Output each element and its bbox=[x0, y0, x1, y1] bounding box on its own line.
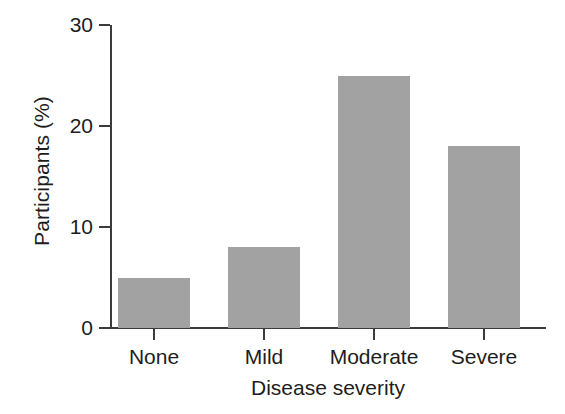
bar bbox=[338, 76, 410, 329]
x-axis-title: Disease severity bbox=[110, 376, 546, 400]
bar bbox=[228, 247, 300, 328]
bar-series bbox=[0, 0, 565, 414]
bar-chart-figure: Participants (%) 0102030 NoneMildModerat… bbox=[0, 0, 565, 414]
bar bbox=[118, 278, 190, 329]
bar bbox=[448, 146, 520, 328]
